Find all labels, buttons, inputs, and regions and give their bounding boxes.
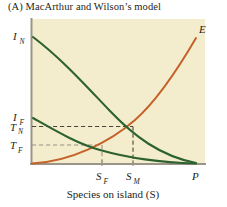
- figure-panel: (A) MacArthur and Wilson’s model: [0, 0, 227, 207]
- x-axis-title: Species on island (S): [67, 188, 160, 201]
- svg-text:I: I: [12, 30, 18, 42]
- curve-label-extinction: E: [198, 23, 206, 35]
- svg-text:N: N: [17, 127, 24, 136]
- svg-text:S: S: [126, 170, 132, 182]
- x-tick-label-sm: S M: [126, 170, 141, 186]
- svg-text:N: N: [19, 37, 26, 46]
- y-tick-label-tf: T F: [10, 139, 23, 155]
- svg-text:F: F: [103, 177, 109, 186]
- x-tick-label-p: P: [191, 170, 199, 182]
- svg-text:F: F: [19, 118, 25, 127]
- svg-text:S: S: [96, 170, 102, 182]
- svg-text:M: M: [133, 177, 141, 186]
- svg-text:F: F: [17, 146, 23, 155]
- plot-svg: E I N I F T N T F S F: [0, 0, 227, 207]
- svg-text:P: P: [191, 170, 199, 182]
- x-tick-label-sf: S F: [96, 170, 109, 186]
- svg-text:T: T: [10, 121, 17, 133]
- plot-background: [31, 19, 205, 164]
- plot-area: E I N I F T N T F S F: [0, 0, 227, 207]
- svg-text:T: T: [10, 139, 17, 151]
- y-tick-label-in: I N: [12, 30, 26, 46]
